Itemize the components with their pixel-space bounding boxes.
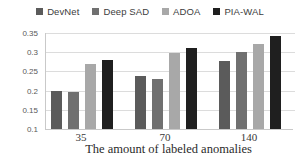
x-axis-title: The amount of labeled anomalies [45,142,292,157]
bar-group-70 [135,33,197,129]
legend-label: DevNet [47,6,79,17]
grouped-bar-chart: DevNetDeep SADADOAPIA-WAL 0.10.150.20.25… [0,0,300,160]
y-tick-label: 0.2 [27,86,38,95]
bar-deep-sad-70 [152,79,163,129]
bar-pia-wal-140 [270,36,281,129]
y-tick-label: 0.35 [22,29,38,38]
bar-group-35 [51,33,113,129]
bar-group-140 [219,33,281,129]
legend-label: ADOA [173,6,200,17]
bar-adoa-70 [169,53,180,129]
bar-pia-wal-70 [186,48,197,129]
y-tick-label: 0.25 [22,67,38,76]
legend-marker-icon [213,8,220,15]
legend-marker-icon [36,8,43,15]
bar-adoa-140 [253,44,264,129]
y-axis-tick-labels: 0.10.150.20.250.30.35 [0,33,41,129]
bar-devnet-140 [219,61,230,129]
legend-item-devnet: DevNet [36,6,79,17]
legend-item-pia-wal: PIA-WAL [213,6,263,17]
bar-groups [46,33,293,129]
legend-item-deep-sad: Deep SAD [92,6,149,17]
bar-adoa-35 [85,64,96,129]
y-tick-label: 0.15 [22,105,38,114]
legend-marker-icon [92,8,99,15]
y-tick-label: 0.3 [27,48,38,57]
legend-item-adoa: ADOA [162,6,200,17]
chart-legend: DevNetDeep SADADOAPIA-WAL [0,6,300,17]
bar-deep-sad-35 [68,92,79,129]
legend-label: Deep SAD [103,6,149,17]
legend-marker-icon [162,8,169,15]
legend-label: PIA-WAL [224,6,263,17]
bar-devnet-70 [135,76,146,129]
bar-deep-sad-140 [236,52,247,129]
bar-devnet-35 [51,91,62,129]
y-tick-label: 0.1 [27,125,38,134]
plot-area [45,33,293,130]
bar-pia-wal-35 [102,60,113,129]
